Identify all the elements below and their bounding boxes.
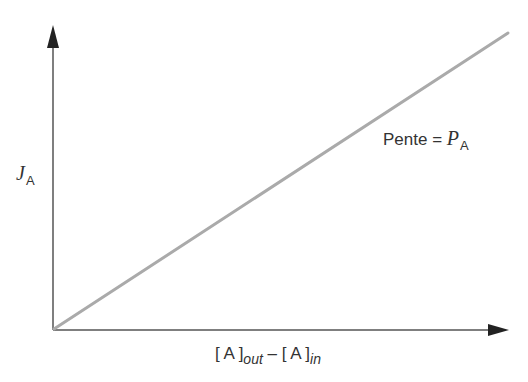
slope-variable: P [447,127,459,149]
x-label-sub-in: in [310,351,321,367]
x-label-sub-out: out [243,351,262,367]
x-label-part1: [ A ] [215,344,243,363]
chart-canvas [0,0,528,382]
slope-prefix: Pente = [383,130,447,149]
slope-subscript: A [460,138,469,153]
data-line [54,33,508,329]
y-axis-arrow-icon [47,25,59,48]
slope-annotation: Pente = PA [383,127,469,150]
x-axis-arrow-icon [488,324,509,336]
y-axis-label: JA [16,162,35,185]
x-label-mid: – [ A ] [263,344,310,363]
x-axis-label: [ A ]out – [ A ]in [215,344,321,364]
y-label-main: J [16,162,25,184]
y-label-subscript: A [26,173,35,188]
